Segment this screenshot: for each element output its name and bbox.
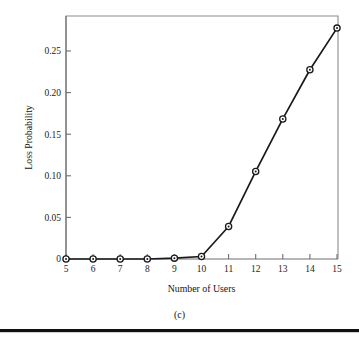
x-tick-label: 15 <box>332 264 342 274</box>
x-tick-label: 9 <box>172 264 177 274</box>
y-axis-tick-labels: 0 0.05 0.10 0.15 0.20 0.25 <box>44 46 61 264</box>
y-tick-label: 0.25 <box>44 46 61 56</box>
data-point-center <box>92 258 94 260</box>
data-point-center <box>146 258 148 260</box>
data-point-center <box>282 118 284 120</box>
y-tick-label: 0.10 <box>44 171 61 181</box>
y-tick-label: 0.20 <box>44 88 61 98</box>
y-axis-ticks <box>66 51 71 259</box>
data-point-center <box>201 256 203 258</box>
x-tick-label: 7 <box>118 264 123 274</box>
data-point-center <box>228 225 230 227</box>
x-axis-title: Number of Users <box>168 283 236 294</box>
data-point-center <box>309 69 311 71</box>
series-line <box>66 28 337 259</box>
data-point-center <box>65 258 67 260</box>
x-tick-label: 5 <box>64 264 69 274</box>
x-tick-label: 8 <box>145 264 150 274</box>
x-tick-label: 6 <box>91 264 96 274</box>
x-axis-tick-labels: 5 6 7 8 9 10 11 12 13 14 15 <box>64 264 342 274</box>
x-tick-label: 14 <box>305 264 315 274</box>
series-markers <box>63 25 340 262</box>
data-point-center <box>173 257 175 259</box>
x-tick-label: 12 <box>251 264 261 274</box>
x-tick-label: 11 <box>224 264 233 274</box>
data-point-center <box>119 258 121 260</box>
figure-panel: 0 0.05 0.10 0.15 0.20 0.25 5 6 7 8 <box>0 0 359 340</box>
data-point-center <box>255 170 257 172</box>
y-axis-title: Loss Probability <box>23 105 34 170</box>
y-tick-label: 0.05 <box>44 213 61 223</box>
plot-frame <box>66 16 338 259</box>
data-point-center <box>336 27 338 29</box>
y-tick-label: 0 <box>56 254 61 264</box>
loss-probability-chart: 0 0.05 0.10 0.15 0.20 0.25 5 6 7 8 <box>0 0 359 340</box>
x-tick-label: 13 <box>278 264 288 274</box>
y-tick-label: 0.15 <box>44 130 61 140</box>
x-tick-label: 10 <box>197 264 207 274</box>
